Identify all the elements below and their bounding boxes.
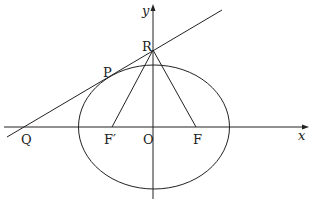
ellipse-diagram: y x O R P Q F′ F [0,0,313,210]
segment-RF-prime [112,50,153,127]
point-Q-label: Q [21,132,32,147]
x-axis-label: x [298,128,306,143]
tangent-line [7,10,222,137]
point-F-prime-label: F′ [104,132,116,147]
origin-label: O [143,132,154,147]
point-R-label: R [142,39,153,54]
y-axis-arrow-icon [151,4,156,11]
y-axis-label: y [141,3,150,18]
point-F-label: F [193,132,202,147]
point-P-label: P [103,65,112,80]
y-axis [151,4,156,199]
segment-RF [153,50,196,127]
x-axis [4,125,309,130]
